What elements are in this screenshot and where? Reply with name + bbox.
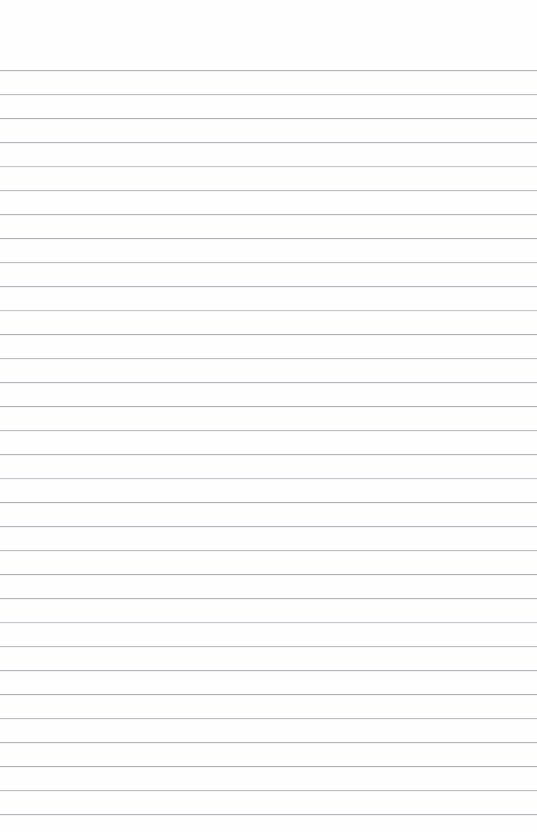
rule-line — [0, 382, 537, 383]
rule-line — [0, 478, 537, 479]
rule-line — [0, 334, 537, 335]
rule-line — [0, 718, 537, 719]
rule-line — [0, 142, 537, 143]
rule-line — [0, 262, 537, 263]
rule-line — [0, 238, 537, 239]
rule-line — [0, 214, 537, 215]
rule-line — [0, 406, 537, 407]
rule-line — [0, 502, 537, 503]
rule-line — [0, 694, 537, 695]
rule-line — [0, 286, 537, 287]
rule-line — [0, 118, 537, 119]
rule-line — [0, 166, 537, 167]
rule-line — [0, 766, 537, 767]
ruled-notebook-page — [0, 0, 537, 832]
rule-line — [0, 646, 537, 647]
rule-line — [0, 430, 537, 431]
rule-line — [0, 94, 537, 95]
rule-line — [0, 526, 537, 527]
rule-line — [0, 670, 537, 671]
rule-line — [0, 790, 537, 791]
rule-line — [0, 622, 537, 623]
rule-line — [0, 598, 537, 599]
rule-line — [0, 550, 537, 551]
ruling-area — [0, 0, 537, 832]
rule-line — [0, 742, 537, 743]
rule-line — [0, 358, 537, 359]
rule-line — [0, 190, 537, 191]
rule-line — [0, 310, 537, 311]
rule-line — [0, 814, 537, 815]
rule-line — [0, 454, 537, 455]
rule-line — [0, 574, 537, 575]
rule-line — [0, 70, 537, 71]
